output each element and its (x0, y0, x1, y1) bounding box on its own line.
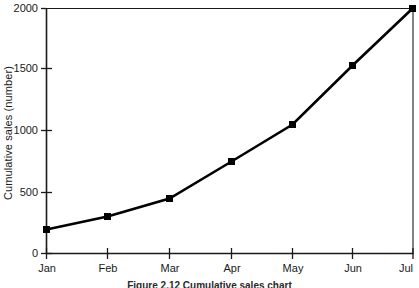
x-tick-label-jun: Jun (332, 263, 374, 274)
y-tick-label-1500: 1500 (8, 63, 38, 74)
x-tick-label-feb: Feb (87, 263, 129, 274)
data-point-apr (228, 158, 235, 165)
data-point-feb (104, 213, 111, 220)
line-chart-svg (0, 0, 419, 288)
y-tick-label-0: 0 (8, 248, 38, 259)
x-tick-label-apr: Apr (211, 263, 253, 274)
y-tick-label-500: 500 (8, 187, 38, 198)
figure-caption: Figure 2.12 Cumulative sales chart (0, 281, 419, 288)
figure-caption-strip: Figure 2.12 Cumulative sales chart (0, 281, 419, 288)
chart-plot-area (0, 0, 419, 288)
figure-container: Cumulative sales (number) 2000 1500 1000… (0, 0, 419, 288)
x-tick-label-mar: Mar (149, 263, 191, 274)
data-point-markers (43, 5, 416, 233)
data-point-jan (43, 226, 50, 233)
x-tick-label-jul: Jul (393, 263, 419, 274)
data-point-mar (166, 195, 173, 202)
data-point-jun (349, 62, 356, 69)
x-tick-label-jan: Jan (26, 263, 68, 274)
y-tick-label-1000: 1000 (8, 125, 38, 136)
x-tick-label-may: May (272, 263, 314, 274)
data-point-may (289, 121, 296, 128)
data-series-line (47, 9, 413, 230)
y-tick-label-2000: 2000 (8, 3, 38, 14)
data-point-jul (409, 5, 416, 12)
